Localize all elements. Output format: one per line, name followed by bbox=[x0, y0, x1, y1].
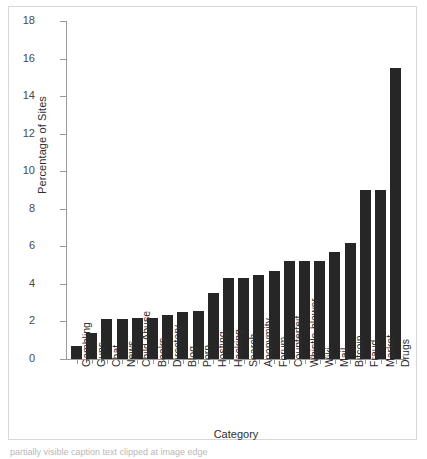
y-tick-mark bbox=[60, 134, 66, 135]
x-tick-mark bbox=[107, 360, 108, 364]
x-tick-label: Mail bbox=[339, 348, 350, 367]
y-tick-mark bbox=[60, 284, 66, 285]
bar-slot bbox=[221, 21, 236, 359]
x-tick-label: Wiki bbox=[324, 347, 335, 367]
bar-slot bbox=[343, 21, 358, 359]
bar-slot bbox=[373, 21, 388, 359]
x-tick-label: Child Abuse bbox=[141, 311, 152, 367]
bar-slot bbox=[267, 21, 282, 359]
x-tick-label: Books bbox=[157, 338, 168, 367]
bar-slot bbox=[282, 21, 297, 359]
x-tick-label: Guns bbox=[96, 342, 107, 367]
x-tick-mark bbox=[381, 360, 382, 364]
bar-slot bbox=[175, 21, 190, 359]
x-tick-mark bbox=[137, 360, 138, 364]
bar bbox=[329, 252, 340, 359]
y-tick-label: 18 bbox=[0, 15, 35, 26]
x-tick-label: Drugs bbox=[400, 339, 411, 367]
x-tick-mark bbox=[259, 360, 260, 364]
x-tick-label: Counterfeit bbox=[293, 316, 304, 367]
y-tick-mark bbox=[60, 59, 66, 60]
x-tick-label: Search bbox=[248, 334, 259, 367]
figure-caption: partially visible caption text clipped a… bbox=[10, 447, 420, 459]
plot-frame: Percentage of Sites 024681012141618 Gamb… bbox=[8, 6, 417, 440]
x-tick-mark bbox=[122, 360, 123, 364]
y-tick-mark bbox=[60, 171, 66, 172]
bar bbox=[360, 190, 371, 359]
y-tick-label: 14 bbox=[0, 90, 35, 101]
y-tick-mark bbox=[60, 21, 66, 22]
x-tick-mark bbox=[335, 360, 336, 364]
y-tick-mark bbox=[60, 96, 66, 97]
y-tick-label: 16 bbox=[0, 53, 35, 64]
x-tick-mark bbox=[320, 360, 321, 364]
y-tick-mark bbox=[60, 359, 66, 360]
x-tick-mark bbox=[153, 360, 154, 364]
y-tick-mark bbox=[60, 246, 66, 247]
x-axis-title: Category bbox=[66, 428, 406, 440]
x-tick-label: Porn bbox=[202, 345, 213, 367]
bar bbox=[375, 190, 386, 359]
y-tick-label: 4 bbox=[0, 278, 35, 289]
bar-slot bbox=[69, 21, 84, 359]
x-tick-mark bbox=[289, 360, 290, 364]
x-tick-label: Whistle-blower bbox=[309, 298, 320, 367]
x-tick-mark bbox=[198, 360, 199, 364]
x-tick-mark bbox=[365, 360, 366, 364]
y-tick-label: 10 bbox=[0, 165, 35, 176]
x-tick-mark bbox=[350, 360, 351, 364]
x-tick-label: Fraud bbox=[369, 340, 380, 367]
y-tick-label: 6 bbox=[0, 240, 35, 251]
bar-series bbox=[69, 21, 405, 359]
bar-slot bbox=[115, 21, 130, 359]
bar-slot bbox=[145, 21, 160, 359]
x-tick-label: Chat bbox=[111, 345, 122, 367]
bar-slot bbox=[191, 21, 206, 359]
y-tick-label: 12 bbox=[0, 128, 35, 139]
x-tick-mark bbox=[244, 360, 245, 364]
x-tick-label: Blog bbox=[187, 346, 198, 367]
bar bbox=[390, 68, 401, 359]
x-tick-mark bbox=[92, 360, 93, 364]
x-tick-label: Anonymity bbox=[263, 318, 274, 367]
bar-slot bbox=[99, 21, 114, 359]
x-tick-mark bbox=[77, 360, 78, 364]
x-tick-mark bbox=[213, 360, 214, 364]
y-axis-line bbox=[66, 21, 67, 360]
x-tick-label: Market bbox=[385, 335, 396, 367]
x-tick-label: Gambling bbox=[81, 322, 92, 367]
y-tick-label: 2 bbox=[0, 315, 35, 326]
x-tick-label: News bbox=[126, 341, 137, 367]
bar-slot bbox=[130, 21, 145, 359]
bar-slot bbox=[160, 21, 175, 359]
x-tick-mark bbox=[168, 360, 169, 364]
x-tick-label: Forum bbox=[278, 337, 289, 367]
y-tick-label: 8 bbox=[0, 203, 35, 214]
x-tick-label: Directory bbox=[172, 325, 183, 367]
x-tick-mark bbox=[396, 360, 397, 364]
y-tick-label: 0 bbox=[0, 353, 35, 364]
x-tick-mark bbox=[183, 360, 184, 364]
bar-slot bbox=[236, 21, 251, 359]
x-tick-mark bbox=[229, 360, 230, 364]
bar-slot bbox=[84, 21, 99, 359]
x-tick-mark bbox=[274, 360, 275, 364]
bar-slot bbox=[327, 21, 342, 359]
y-tick-mark bbox=[60, 209, 66, 210]
bar-slot bbox=[358, 21, 373, 359]
x-tick-label: Hacking bbox=[233, 329, 244, 367]
bar-slot bbox=[388, 21, 403, 359]
x-tick-label: Bitcoin bbox=[354, 335, 365, 367]
figure: Percentage of Sites 024681012141618 Gamb… bbox=[0, 0, 427, 459]
x-tick-mark bbox=[305, 360, 306, 364]
bar-slot bbox=[251, 21, 266, 359]
y-axis-title: Percentage of Sites bbox=[36, 65, 48, 225]
x-tick-label: Hosting bbox=[217, 331, 228, 367]
bar-slot bbox=[206, 21, 221, 359]
y-tick-mark bbox=[60, 321, 66, 322]
